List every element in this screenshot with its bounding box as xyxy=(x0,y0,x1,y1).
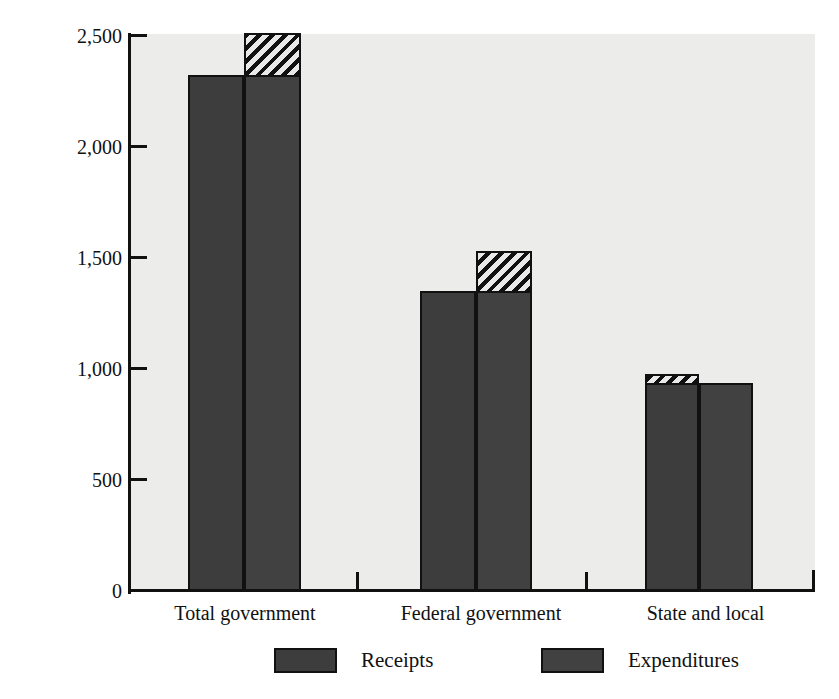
legend-label-receipts: Receipts xyxy=(361,650,433,671)
surplus-cap-state-and-local xyxy=(645,374,699,385)
legend-item-expenditures: Expenditures xyxy=(541,648,739,673)
y-tick-label-2500: 2,500 xyxy=(18,26,122,46)
x-category-label-federal-government: Federal government xyxy=(386,602,576,625)
bar-receipts-state-and-local xyxy=(645,383,699,592)
y-tick-label-1000: 1,000 xyxy=(18,359,122,379)
deficit-cap-federal-government xyxy=(476,251,532,293)
y-tick-2000: 2,000 xyxy=(0,137,122,157)
bar-chart-figure: Billions of $ 2,500 2,000 1,500 1,000 50… xyxy=(0,0,839,699)
legend-item-receipts: Receipts xyxy=(274,648,433,673)
y-tick-1000: 1,000 xyxy=(0,359,122,379)
y-tick-label-1500: 1,500 xyxy=(18,248,122,268)
y-tick-2500: 2,500 xyxy=(0,26,122,46)
x-tick-mark-2 xyxy=(585,572,588,590)
y-tick-mark-2500 xyxy=(131,34,147,37)
bar-receipts-total-government xyxy=(188,75,244,592)
y-tick-label-500: 500 xyxy=(18,470,122,490)
y-axis-line xyxy=(128,33,131,594)
y-tick-mark-1500 xyxy=(131,256,147,259)
y-tick-mark-2000 xyxy=(131,145,147,148)
y-tick-mark-1000 xyxy=(131,367,147,370)
bar-expenditures-federal-government xyxy=(476,291,532,592)
legend-swatch-receipts xyxy=(274,648,337,673)
y-tick-label-2000: 2,000 xyxy=(18,137,122,157)
legend-swatch-expenditures xyxy=(541,648,604,673)
bar-receipts-federal-government xyxy=(420,291,476,592)
x-axis-line xyxy=(128,589,815,592)
y-tick-1500: 1,500 xyxy=(0,248,122,268)
x-axis-right-cap xyxy=(812,570,815,592)
y-tick-500: 500 xyxy=(0,470,122,490)
bar-expenditures-state-and-local xyxy=(699,383,753,592)
y-tick-label-0: 0 xyxy=(18,581,122,601)
x-category-label-total-government: Total government xyxy=(160,602,330,625)
x-tick-mark-1 xyxy=(356,572,359,590)
chart-legend: Receipts Expenditures xyxy=(0,648,839,692)
x-category-label-state-and-local: State and local xyxy=(628,602,783,625)
legend-label-expenditures: Expenditures xyxy=(628,650,739,671)
deficit-cap-total-government xyxy=(244,33,301,77)
y-tick-0: 0 xyxy=(0,581,122,601)
bar-expenditures-total-government xyxy=(244,75,301,592)
y-tick-mark-500 xyxy=(131,478,147,481)
